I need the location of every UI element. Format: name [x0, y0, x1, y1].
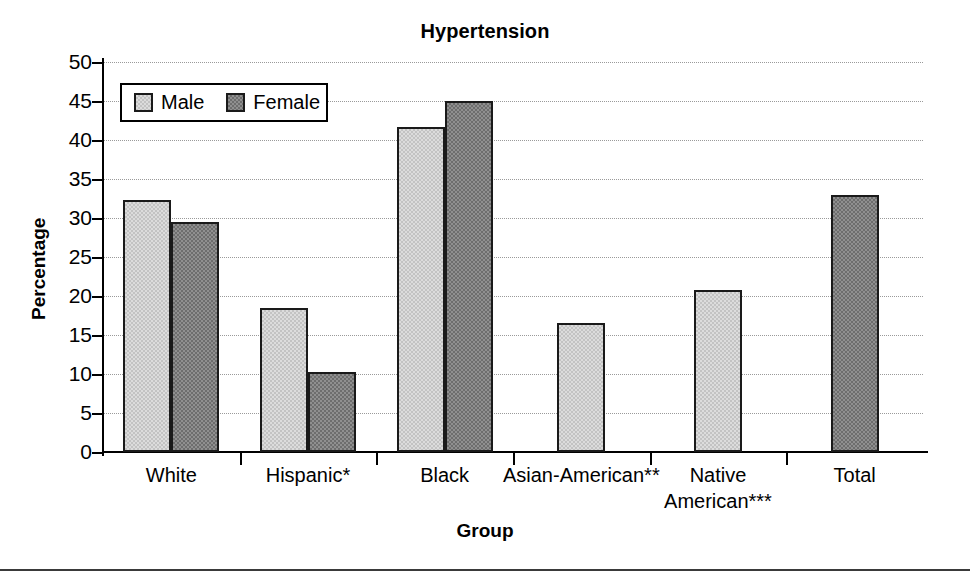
y-tick-label-30: 30	[46, 207, 92, 228]
bar-total-5	[831, 195, 879, 452]
x-tick-label-5: Total	[768, 462, 941, 488]
bar-female-0	[171, 222, 219, 452]
legend-label-male: Male	[161, 91, 204, 114]
y-axis-tick-labels: 05101520253035404550	[36, 0, 92, 585]
y-tick-label-35: 35	[46, 168, 92, 189]
bar-male-1	[260, 308, 308, 452]
hypertension-bar-chart-figure: Hypertension Percentage 0510152025303540…	[0, 0, 970, 585]
y-tick-label-0: 0	[46, 441, 92, 462]
legend-swatch-male-icon	[134, 93, 153, 112]
y-tick-label-10: 10	[46, 363, 92, 384]
bar-male-2	[397, 127, 445, 452]
y-tick-label-40: 40	[46, 129, 92, 150]
chart-legend: Male Female	[120, 83, 328, 122]
legend-item-female: Female	[226, 91, 320, 114]
y-tick-label-50: 50	[46, 51, 92, 72]
y-tick-label-45: 45	[46, 90, 92, 111]
y-tick-label-20: 20	[46, 285, 92, 306]
y-tick-label-5: 5	[46, 402, 92, 423]
bar-female-2	[445, 101, 493, 452]
legend-item-male: Male	[134, 91, 204, 114]
legend-label-female: Female	[253, 91, 320, 114]
legend-swatch-female-icon	[226, 93, 245, 112]
bottom-divider	[0, 569, 970, 571]
bar-male-3	[557, 323, 605, 452]
y-tick-label-15: 15	[46, 324, 92, 345]
bar-male-4	[694, 290, 742, 452]
x-axis-title: Group	[0, 520, 970, 542]
bar-female-1	[308, 372, 356, 452]
y-tick-label-25: 25	[46, 246, 92, 267]
bar-male-0	[123, 200, 171, 452]
chart-title: Hypertension	[0, 20, 970, 43]
